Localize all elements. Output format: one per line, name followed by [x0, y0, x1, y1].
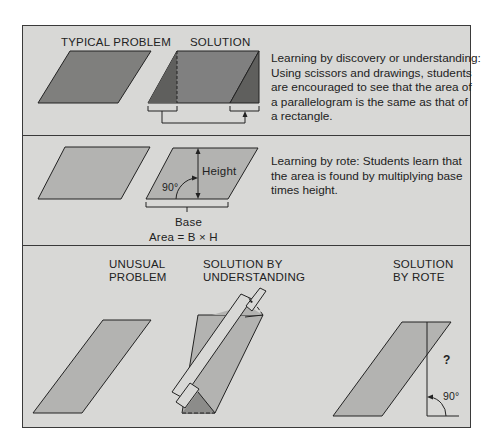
rote-solution-figure	[333, 322, 459, 416]
rote-solution-parallelogram	[146, 148, 258, 212]
height-label: Height	[202, 165, 236, 178]
solution-parallelogram	[148, 51, 259, 123]
base-label: Base	[175, 216, 202, 229]
area-formula: Area = B × H	[149, 231, 218, 244]
label-line: BY ROTE	[393, 271, 453, 284]
typical-problem-label: TYPICAL PROBLEM	[61, 36, 171, 49]
caption-line: are encouraged to see that the area of	[271, 80, 481, 95]
caption-line: Using scissors and drawings, students	[271, 66, 481, 81]
caption-line: the area is found by multiplying base	[271, 169, 463, 184]
angle-label: 90°	[162, 181, 178, 194]
understanding-solution-figure	[172, 288, 266, 413]
caption-line: a rectangle.	[271, 109, 481, 124]
discovery-caption: Learning by discovery or understanding: …	[271, 51, 481, 124]
label-line: SOLUTION	[393, 258, 453, 271]
solution-label: SOLUTION	[190, 36, 250, 49]
caption-line: a parallelogram is the same as that of	[271, 95, 481, 110]
label-line: SOLUTION BY	[203, 258, 305, 271]
label-line: UNUSUAL	[109, 258, 167, 271]
rote-angle-label: 90°	[443, 390, 459, 403]
solution-rote-label: SOLUTION BY ROTE	[393, 258, 453, 284]
solution-understanding-label: SOLUTION BY UNDERSTANDING	[203, 258, 305, 284]
caption-line: times height.	[271, 183, 463, 198]
label-line: UNDERSTANDING	[203, 271, 305, 284]
unusual-problem-label: UNUSUAL PROBLEM	[109, 258, 167, 284]
caption-line: Learning by discovery or understanding:	[271, 51, 481, 66]
caption-line: Learning by rote: Students learn that	[271, 154, 463, 169]
question-mark: ?	[443, 354, 451, 367]
rote-caption: Learning by rote: Students learn that th…	[271, 154, 463, 198]
unusual-problem-parallelogram	[33, 320, 151, 413]
rote-problem-parallelogram	[38, 147, 150, 199]
typical-problem-parallelogram	[38, 51, 151, 103]
label-line: PROBLEM	[109, 271, 167, 284]
